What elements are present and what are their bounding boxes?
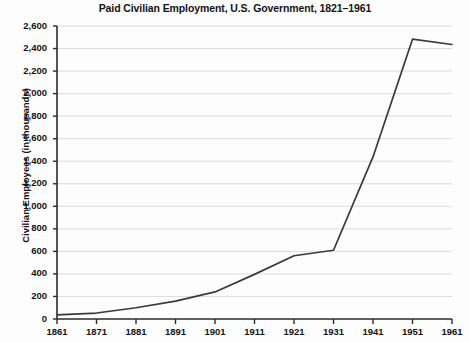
x-tick-label: 1931 [312,326,356,337]
gridlines [57,26,452,296]
y-tick-label: 0 [3,313,47,324]
x-tick-label: 1871 [75,326,119,337]
y-tick-label: 2,600 [3,20,47,31]
chart-figure: Paid Civilian Employment, U.S. Governmen… [0,0,470,342]
y-tick-label: 400 [3,267,47,278]
plot-area [0,0,470,342]
x-tick-label: 1921 [272,326,316,337]
y-tick-label: 1,400 [3,155,47,166]
y-tick-label: 1,600 [3,132,47,143]
x-tick-label: 1901 [193,326,237,337]
x-tick-label: 1881 [114,326,158,337]
y-tick-label: 1,800 [3,110,47,121]
y-tick-label: 2,400 [3,42,47,53]
x-tick-label: 1961 [430,326,470,337]
x-tick-label: 1941 [351,326,395,337]
y-tick-label: 1,200 [3,177,47,188]
y-tick-label: 600 [3,245,47,256]
x-tick-label: 1891 [154,326,198,337]
x-tick-label: 1951 [391,326,435,337]
y-tick-label: 1,000 [3,200,47,211]
x-tick-label: 1861 [35,326,79,337]
y-tick-label: 2,200 [3,65,47,76]
x-tick-label: 1911 [233,326,277,337]
y-tick-label: 800 [3,222,47,233]
y-tick-label: 2,000 [3,87,47,98]
y-tick-label: 200 [3,290,47,301]
